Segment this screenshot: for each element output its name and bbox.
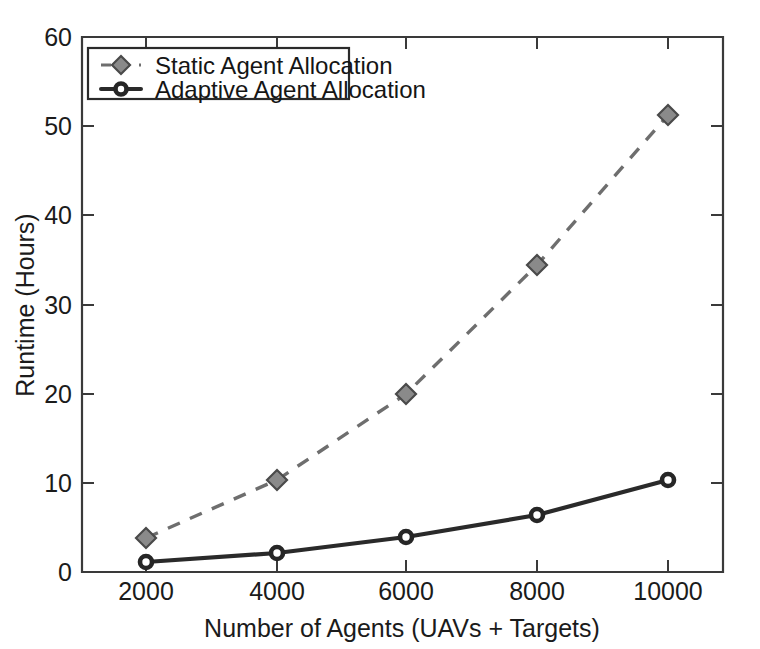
x-tick-label-6000: 6000 <box>378 577 434 605</box>
x-tick-label-2000: 2000 <box>118 577 174 605</box>
y-axis-title: Runtime (Hours) <box>11 213 39 396</box>
static-series-line <box>146 115 668 538</box>
static-marker-6000 <box>396 384 416 404</box>
y-tick-label-30: 30 <box>44 291 72 319</box>
static-marker-10000 <box>658 105 678 125</box>
x-tick-label-10000: 10000 <box>633 577 703 605</box>
static-marker-4000 <box>267 470 287 490</box>
adaptive-marker-6000 <box>400 531 412 543</box>
static-marker-2000 <box>136 528 156 548</box>
y-tick-label-20: 20 <box>44 380 72 408</box>
series-adaptive-agent-allocation <box>140 474 674 568</box>
chart-legend: Static Agent Allocation Adaptive Agent A… <box>88 48 426 103</box>
runtime-comparison-chart: 0 10 20 30 40 50 60 2000 4000 6000 80 <box>0 0 760 649</box>
x-axis-tick-labels: 2000 4000 6000 8000 10000 <box>118 577 703 605</box>
adaptive-marker-8000 <box>531 509 543 521</box>
x-tick-label-8000: 8000 <box>509 577 565 605</box>
x-axis-ticks <box>146 37 668 572</box>
adaptive-marker-10000 <box>662 474 674 486</box>
adaptive-marker-2000 <box>140 556 152 568</box>
y-tick-label-60: 60 <box>44 23 72 51</box>
legend-adaptive-circle-icon <box>116 84 127 95</box>
y-axis-tick-labels: 0 10 20 30 40 50 60 <box>44 23 72 586</box>
y-tick-label-0: 0 <box>58 558 72 586</box>
y-tick-label-10: 10 <box>44 469 72 497</box>
x-tick-label-4000: 4000 <box>249 577 305 605</box>
legend-label-static: Static Agent Allocation <box>155 52 393 79</box>
y-tick-label-40: 40 <box>44 201 72 229</box>
adaptive-marker-4000 <box>271 547 283 559</box>
figure-container: 0 10 20 30 40 50 60 2000 4000 6000 80 <box>0 0 760 649</box>
y-tick-label-50: 50 <box>44 112 72 140</box>
series-static-agent-allocation <box>136 105 678 548</box>
adaptive-series-line <box>146 480 668 562</box>
x-axis-title: Number of Agents (UAVs + Targets) <box>204 614 600 642</box>
legend-label-adaptive: Adaptive Agent Allocation <box>155 76 426 103</box>
